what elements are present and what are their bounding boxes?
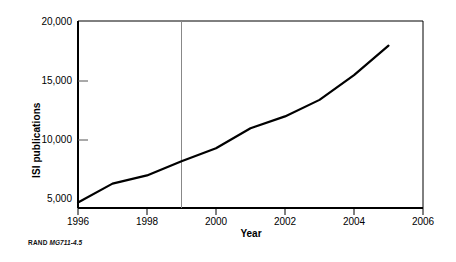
- x-tick-label-2000: 2000: [196, 216, 236, 227]
- x-tick-label-2006: 2006: [403, 216, 443, 227]
- x-tick-label-1998: 1998: [127, 216, 167, 227]
- x-tick-label-2002: 2002: [265, 216, 305, 227]
- figure-caption: RAND MG711-4.5: [28, 239, 82, 246]
- caption-code: MG711-4.5: [49, 239, 82, 246]
- x-axis-title: Year: [78, 228, 424, 239]
- y-axis-ticks: [78, 81, 88, 140]
- x-axis-ticks: [78, 208, 423, 215]
- data-line-isi-publications: [78, 46, 389, 203]
- x-tick-label-2004: 2004: [334, 216, 374, 227]
- caption-brand: RAND: [28, 239, 48, 246]
- x-tick-label-1996: 1996: [58, 216, 98, 227]
- figure-container: ISI publications 20,000 15,000 10,000 5,…: [0, 0, 456, 262]
